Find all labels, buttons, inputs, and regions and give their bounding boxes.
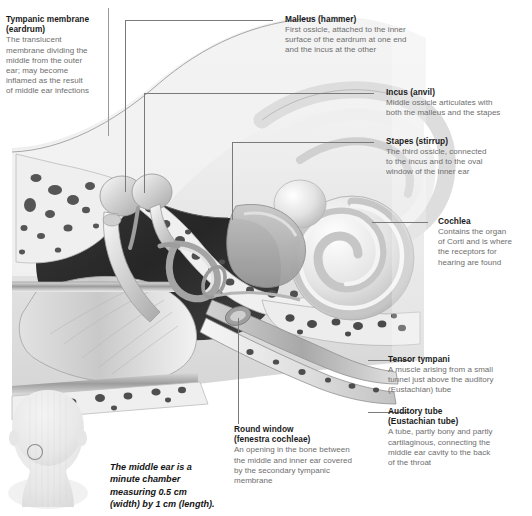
callout-body: The third ossicle, connected to the incu… xyxy=(386,147,532,178)
callout-auditory-tube: Auditory tube (Eustachian tube) A tube, … xyxy=(388,406,532,468)
leader-incus-vertical xyxy=(144,93,145,193)
callout-title: Round window (fenestra cochleae) xyxy=(234,424,384,445)
callout-malleus: Malleus (hammer) First ossicle, attached… xyxy=(285,14,445,56)
callout-title: Incus (anvil) xyxy=(386,87,532,97)
callout-tympanic-membrane: Tympanic membrane (eardrum) The transluc… xyxy=(6,14,106,97)
leader-cochlea xyxy=(372,222,428,223)
leader-stapes-vertical xyxy=(232,142,233,220)
callout-tensor-tympani: Tensor tympani A muscle arising from a s… xyxy=(388,354,532,396)
callout-body: Contains the organ of Corti and is where… xyxy=(438,227,532,268)
leader-round-window xyxy=(238,318,239,424)
callout-title: Stapes (stirrup) xyxy=(386,136,532,146)
callout-title: Malleus (hammer) xyxy=(285,14,445,24)
figure-caption: The middle ear is a minute chamber measu… xyxy=(110,461,244,510)
leader-incus-horizontal xyxy=(144,93,374,94)
head-inset xyxy=(8,390,88,509)
callout-body: The translucent membrane dividing the mi… xyxy=(6,35,106,96)
callout-title: Tensor tympani xyxy=(388,354,532,364)
callout-body: An opening in the bone between the middl… xyxy=(234,445,384,486)
tympanic-divider-rule xyxy=(108,8,109,136)
callout-title: Tympanic membrane (eardrum) xyxy=(6,14,106,35)
leader-malleus-vertical xyxy=(125,20,126,192)
leader-stapes-horizontal xyxy=(232,142,374,143)
callout-title: Auditory tube (Eustachian tube) xyxy=(388,406,532,427)
callout-stapes: Stapes (stirrup) The third ossicle, conn… xyxy=(386,136,532,178)
figure-canvas: Tympanic membrane (eardrum) The transluc… xyxy=(0,0,532,516)
callout-cochlea: Cochlea Contains the organ of Corti and … xyxy=(438,216,532,268)
callout-title: Cochlea xyxy=(438,216,532,226)
callout-incus: Incus (anvil) Middle ossicle articulates… xyxy=(386,87,532,118)
callout-round-window: Round window (fenestra cochleae) An open… xyxy=(234,424,384,486)
callout-body: A tube, partly bony and partly cartilagi… xyxy=(388,427,532,468)
leader-malleus-horizontal xyxy=(125,20,273,21)
callout-body: Middle ossicle articulates with both the… xyxy=(386,98,532,118)
callout-body: A muscle arising from a small tunnel jus… xyxy=(388,365,532,396)
callout-body: First ossicle, attached to the inner sur… xyxy=(285,25,445,56)
